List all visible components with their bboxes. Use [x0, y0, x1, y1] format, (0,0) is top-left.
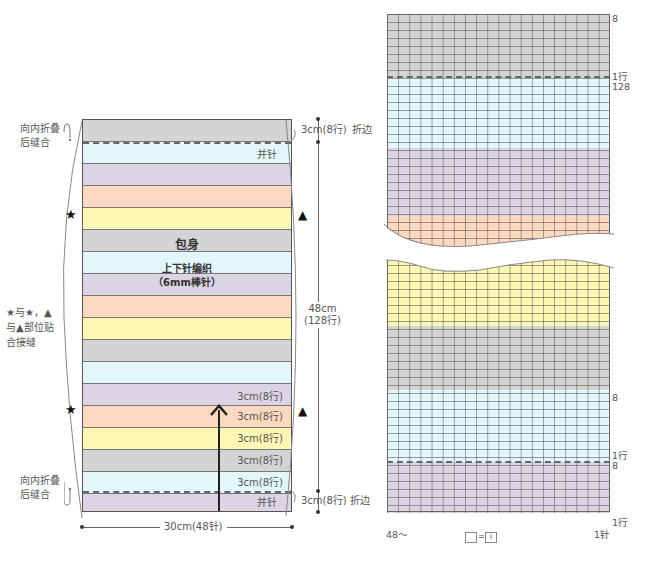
bind-off-label-bottom: 并针	[257, 497, 277, 509]
row-label-top-8: 8	[612, 14, 618, 24]
fold-arrow-icon	[64, 478, 76, 508]
row-label-row1-bottom: 1行	[612, 518, 628, 528]
needle-label: （6mm棒针）	[83, 274, 291, 289]
stripe-purple	[83, 164, 291, 186]
technique-label: 上下针编织	[83, 260, 291, 275]
total-height-cm: 48cm	[304, 303, 341, 315]
fold-line-bottom	[83, 491, 291, 493]
bottom-hem-measure: 3cm(8行)	[301, 495, 347, 507]
piece-title: 包身	[83, 235, 291, 252]
stripe-gray	[83, 120, 291, 142]
stitch-label-left: 48～	[386, 530, 408, 540]
stripe-gray	[83, 340, 291, 362]
stripe-yellow	[83, 318, 291, 340]
chart-break-wave-bottom	[380, 250, 620, 290]
triangle-icon: ▲	[298, 208, 307, 222]
total-height-label: 48cm (128行)	[304, 302, 341, 328]
top-hem-fold-label: 折边	[352, 124, 372, 136]
stripe-yellow	[83, 208, 291, 230]
stitch-label-right: 1针	[594, 530, 610, 540]
stripe-measure: 3cm(8行)	[237, 391, 283, 403]
stripe-orange	[83, 296, 291, 318]
join-note: ★与★，▲ 与▲部位贴 合接缝	[6, 305, 54, 350]
body-panel: 包身 上下针编织 （6mm棒针） 并针 并针 3cm(8行) 3cm(8行) 3…	[82, 119, 292, 512]
width-label: 30cm(48针)	[160, 521, 227, 533]
row-label-8-lower: 8	[612, 461, 618, 471]
legend-empty-cell-icon	[465, 532, 477, 543]
dimension-dot	[316, 510, 320, 514]
stripe-measure: 3cm(8行)	[237, 411, 283, 423]
stripe-measure: 3cm(8行)	[237, 433, 283, 445]
chart-bottom-panel	[387, 256, 610, 513]
dimension-dot	[316, 117, 320, 121]
bottom-hem-fold-label: 折边	[350, 495, 370, 507]
triangle-icon: ▲	[298, 404, 307, 418]
knit-direction-arrow-icon	[210, 404, 228, 416]
dimension-dot	[316, 140, 320, 144]
bottom-fold-note: 向内折叠 后缝合	[20, 474, 60, 502]
fold-line-top	[83, 142, 291, 144]
dimension-dot	[290, 525, 294, 529]
legend-knit-symbol-icon: I	[485, 532, 497, 543]
legend-equals: =	[478, 532, 485, 542]
bind-off-label-top: 并针	[257, 149, 277, 161]
stripe-measure: 3cm(8行)	[237, 477, 283, 489]
total-height-rows: (128行)	[304, 315, 341, 327]
top-fold-note: 向内折叠 后缝合	[20, 122, 60, 150]
top-fold-note-text: 向内折叠 后缝合	[20, 122, 60, 150]
stripe-orange	[83, 186, 291, 208]
row-label-128: 128	[612, 82, 630, 92]
chart-bottom-frame	[387, 256, 610, 512]
dimension-dot	[80, 525, 84, 529]
star-icon: ★	[65, 402, 77, 417]
stripe-light-blue	[83, 362, 291, 384]
row-label-8-upper: 8	[612, 393, 618, 403]
stripe-measure: 3cm(8行)	[237, 455, 283, 467]
dimension-dot	[316, 489, 320, 493]
star-icon: ★	[65, 207, 77, 222]
top-hem-measure: 3cm(8行)	[301, 124, 347, 136]
knit-direction-arrow-shaft	[218, 410, 220, 512]
